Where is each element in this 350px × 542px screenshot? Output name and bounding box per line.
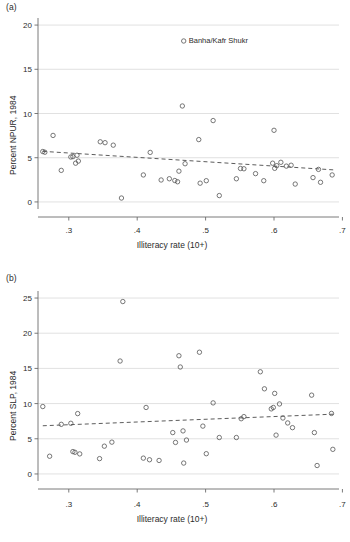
x-tick-label: .7 xyxy=(330,500,350,509)
data-point xyxy=(290,425,294,429)
y-tick-label: 10 xyxy=(6,399,32,408)
data-point xyxy=(201,424,205,428)
data-point xyxy=(270,161,274,165)
data-point xyxy=(171,430,175,434)
data-point xyxy=(262,387,266,391)
data-point xyxy=(144,405,148,409)
panel-b: (b) Percent SLP, 1984 Illiteracy rate (1… xyxy=(0,271,344,542)
data-point xyxy=(175,180,179,184)
x-tick-label: .3 xyxy=(57,226,81,235)
data-point xyxy=(182,39,186,43)
panel-b-tag: (b) xyxy=(6,273,17,283)
data-point xyxy=(285,421,289,425)
data-point xyxy=(183,162,187,166)
data-point xyxy=(177,354,181,358)
panel-b-scatter-svg xyxy=(38,291,339,481)
y-tick-label: 0 xyxy=(6,469,32,478)
data-point xyxy=(211,118,215,122)
data-point xyxy=(78,452,82,456)
data-point xyxy=(329,411,333,415)
x-tick-label: .5 xyxy=(194,226,218,235)
x-tick-label: .6 xyxy=(262,500,286,509)
y-tick-label: 20 xyxy=(6,329,32,338)
data-point xyxy=(211,401,215,405)
data-point xyxy=(110,440,114,444)
data-point xyxy=(148,150,152,154)
data-point xyxy=(47,454,51,458)
data-point xyxy=(312,430,316,434)
data-point xyxy=(121,299,125,303)
y-tick-label: 15 xyxy=(6,65,32,74)
data-point xyxy=(253,171,257,175)
panel-b-x-axis-label: Illiteracy rate (10+) xyxy=(0,514,344,524)
data-point xyxy=(309,393,313,397)
data-point xyxy=(173,440,177,444)
y-tick-label: 20 xyxy=(6,21,32,30)
data-point xyxy=(141,173,145,177)
y-tick-label: 5 xyxy=(6,434,32,443)
data-point xyxy=(272,391,276,395)
x-tick-label: .3 xyxy=(57,500,81,509)
data-point xyxy=(331,447,335,451)
data-point xyxy=(98,140,102,144)
x-tick-label: .4 xyxy=(125,226,149,235)
data-point xyxy=(59,168,63,172)
data-point xyxy=(159,178,163,182)
x-tick-label: .5 xyxy=(194,500,218,509)
data-point xyxy=(111,143,115,147)
data-point xyxy=(315,463,319,467)
data-point xyxy=(157,458,161,462)
data-point xyxy=(167,177,171,181)
panel-b-plot-area xyxy=(38,291,339,481)
data-point xyxy=(97,456,101,460)
data-point xyxy=(279,160,283,164)
data-point xyxy=(103,140,107,144)
data-point xyxy=(177,169,181,173)
data-point xyxy=(51,133,55,137)
panel-a-plot-area xyxy=(38,18,339,209)
data-point xyxy=(180,104,184,108)
data-point xyxy=(262,179,266,183)
y-tick-label: 0 xyxy=(6,197,32,206)
data-point xyxy=(141,456,145,460)
data-point xyxy=(198,181,202,185)
data-point xyxy=(272,128,276,132)
data-point xyxy=(75,411,79,415)
panel-a-x-axis-label: Illiteracy rate (10+) xyxy=(0,240,344,250)
data-point xyxy=(41,404,45,408)
data-point xyxy=(173,178,177,182)
panel-a-scatter-svg xyxy=(38,18,339,209)
x-tick-label: .6 xyxy=(262,226,286,235)
panel-a-tag: (a) xyxy=(6,2,17,12)
data-point xyxy=(318,180,322,184)
point-annotation: Banha/Kafr Shukr xyxy=(189,36,248,45)
data-point xyxy=(284,164,288,168)
data-point xyxy=(330,173,334,177)
data-point xyxy=(118,359,122,363)
data-point xyxy=(204,179,208,183)
trend-line xyxy=(43,414,334,426)
panel-a-y-axis-label: Percent NPUR, 1984 xyxy=(8,96,18,175)
y-tick-label: 15 xyxy=(6,364,32,373)
data-point xyxy=(274,433,278,437)
data-point xyxy=(147,458,151,462)
data-point xyxy=(119,196,123,200)
data-point xyxy=(311,175,315,179)
y-tick-label: 10 xyxy=(6,109,32,118)
data-point xyxy=(258,370,262,374)
x-tick-label: .4 xyxy=(125,500,149,509)
data-point xyxy=(181,429,185,433)
y-tick-label: 25 xyxy=(6,294,32,303)
data-point xyxy=(316,167,320,171)
data-point xyxy=(197,350,201,354)
y-tick-label: 5 xyxy=(6,153,32,162)
data-point xyxy=(59,422,63,426)
data-point xyxy=(102,444,106,448)
data-point xyxy=(293,182,297,186)
data-point xyxy=(217,193,221,197)
data-point xyxy=(75,153,79,157)
data-point xyxy=(234,177,238,181)
panel-a: (a) Percent NPUR, 1984 Illiteracy rate (… xyxy=(0,0,344,271)
data-point xyxy=(197,137,201,141)
data-point xyxy=(182,461,186,465)
